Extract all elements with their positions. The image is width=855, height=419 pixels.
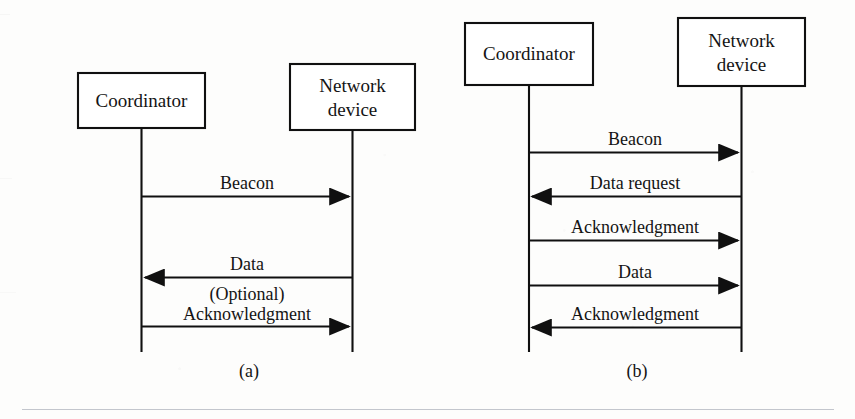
panel-b-network-device-label-line1: Network — [708, 30, 775, 51]
panel-b-node-network-device: Network device — [678, 18, 805, 86]
panel-b-message-beacon-label: Beacon — [608, 129, 662, 149]
panel-b-message-acknowledgment-first-label: Acknowledgment — [571, 217, 699, 237]
figure-canvas: Coordinator Network device Beacon Data (… — [0, 0, 855, 419]
panel-b-message-acknowledgment-second-label: Acknowledgment — [571, 304, 699, 324]
panel-b-message-acknowledgment-second: Acknowledgment — [532, 304, 742, 328]
panel-b-message-data-request: Data request — [532, 173, 742, 197]
panel-b-caption: (b) — [627, 361, 648, 382]
sequence-diagram-panel-b: Coordinator Network device Beacon Data r… — [0, 0, 855, 400]
panel-b-message-beacon: Beacon — [529, 129, 738, 153]
panel-b-message-data-request-label: Data request — [590, 173, 680, 193]
panel-b-coordinator-label: Coordinator — [483, 43, 575, 64]
panel-b-node-coordinator: Coordinator — [465, 23, 593, 85]
panel-b-message-acknowledgment-first: Acknowledgment — [529, 217, 738, 241]
panel-b-network-device-label-line2: device — [717, 54, 767, 75]
page-footer-rule — [22, 409, 834, 410]
panel-b-message-data: Data — [529, 262, 738, 286]
panel-b-message-data-label: Data — [618, 262, 652, 282]
panel-b-network-device-box — [678, 18, 805, 86]
